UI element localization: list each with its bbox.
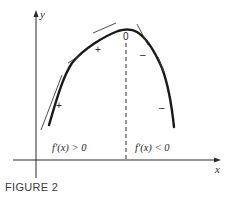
- x-axis: [13, 158, 221, 163]
- left-region-condition: f′(x) > 0: [52, 143, 86, 154]
- tangent-near-peak-left: [93, 23, 116, 33]
- figure-canvas: [0, 0, 230, 202]
- slope-sign-left-lower: +: [56, 101, 62, 111]
- tangent-left-upper: [68, 54, 82, 63]
- function-curve: [49, 30, 174, 127]
- tangent-right-mid: [158, 57, 164, 72]
- x-axis-label: x: [215, 164, 220, 175]
- right-region-condition: f′(x) < 0: [135, 143, 169, 154]
- slope-sign-right-lower: –: [159, 103, 165, 113]
- slope-sign-right-upper: –: [140, 50, 146, 60]
- derivative-sign-figure: y x 0 + + – – f′(x) > 0 f′(x) < 0 FIGURE…: [0, 0, 230, 202]
- y-axis-label: y: [40, 9, 45, 20]
- critical-point-label: 0: [123, 32, 129, 42]
- figure-caption: FIGURE 2: [5, 182, 58, 193]
- slope-sign-left-upper: +: [95, 45, 101, 55]
- y-axis-arrow-icon: [34, 10, 39, 17]
- x-axis-arrow-icon: [214, 158, 221, 163]
- y-axis: [34, 10, 39, 178]
